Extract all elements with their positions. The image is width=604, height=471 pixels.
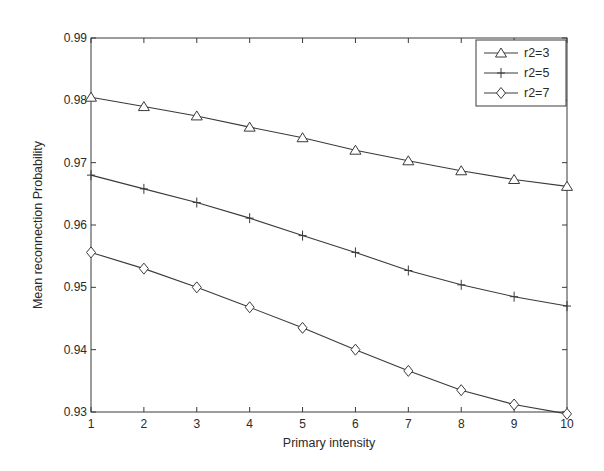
legend-label: r2=7	[524, 86, 549, 100]
x-tick-label: 9	[511, 417, 518, 431]
x-tick-label: 6	[352, 417, 359, 431]
series-line	[91, 175, 567, 306]
series-r2-5	[87, 170, 571, 311]
x-tick-label: 4	[246, 417, 253, 431]
diamond-marker-icon	[404, 365, 413, 376]
y-axis-label: Mean reconnection Probability	[31, 140, 45, 309]
diamond-marker-icon	[87, 247, 96, 258]
x-tick-label: 3	[193, 417, 200, 431]
legend-label: r2=5	[524, 66, 549, 80]
diamond-marker-icon	[192, 282, 201, 293]
x-axis-label: Primary intensity	[283, 436, 376, 450]
legend: r2=3r2=5r2=7	[476, 40, 566, 106]
triangle-marker-icon	[86, 92, 97, 101]
line-chart: 0.930.940.950.960.970.980.99 12345678910…	[0, 0, 604, 471]
series-line	[91, 97, 567, 186]
series-line	[91, 252, 567, 413]
x-tick-label: 1	[88, 417, 95, 431]
diamond-marker-icon	[457, 385, 466, 396]
diamond-marker-icon	[351, 344, 360, 355]
series-layer	[86, 92, 573, 419]
y-tick-label: 0.95	[64, 280, 88, 294]
y-tick-label: 0.97	[64, 156, 88, 170]
diamond-marker-icon	[510, 399, 519, 410]
x-tick-label: 2	[141, 417, 148, 431]
diamond-marker-icon	[139, 263, 148, 274]
legend-label: r2=3	[524, 46, 549, 60]
diamond-marker-icon	[298, 322, 307, 333]
y-tick-label: 0.99	[64, 31, 88, 45]
x-tick-label: 5	[299, 417, 306, 431]
y-tick-label: 0.93	[64, 405, 88, 419]
y-tick-label: 0.98	[64, 93, 88, 107]
x-tick-label: 8	[458, 417, 465, 431]
series-r2-3	[86, 92, 573, 190]
diamond-marker-icon	[245, 302, 254, 313]
y-tick-label: 0.96	[64, 218, 88, 232]
x-tick-label: 7	[405, 417, 412, 431]
series-r2-7	[87, 247, 572, 419]
y-tick-label: 0.94	[64, 343, 88, 357]
